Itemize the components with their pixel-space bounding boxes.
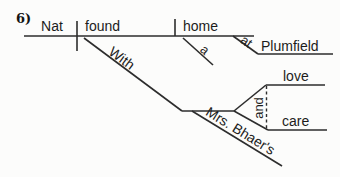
direct-object-word: home <box>183 18 218 34</box>
verb-word: found <box>85 18 120 34</box>
object-of-at-word: Plumfield <box>261 38 319 54</box>
preposition-at-word: at <box>238 32 256 51</box>
article-modifier-word: a <box>197 42 213 59</box>
possessive-modifier-word: Mrs. Bhaer's <box>203 104 278 158</box>
coordinate-object-care-word: care <box>282 113 309 129</box>
conjunction-word: and <box>251 97 266 119</box>
subject-word: Nat <box>41 18 63 34</box>
worksheet-page: 6) Nat found home a at Plumfield With Mr… <box>0 0 340 177</box>
exercise-number-label: 6) <box>16 11 31 26</box>
sentence-diagram: 6) Nat found home a at Plumfield With Mr… <box>0 0 340 177</box>
preposition-with-slant-line <box>84 38 182 111</box>
coordinate-object-love-word: love <box>283 68 309 84</box>
preposition-with-word: With <box>106 43 138 73</box>
